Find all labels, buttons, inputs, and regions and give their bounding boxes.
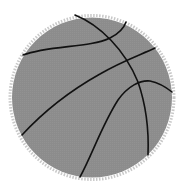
basketball-icon (0, 0, 185, 188)
